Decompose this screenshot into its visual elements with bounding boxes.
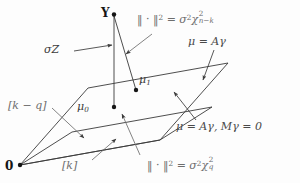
label-mu1-sub: 1 (146, 78, 151, 87)
label-k-minus-q-text: [k − q] (8, 99, 47, 112)
leader-sigma-z (74, 45, 112, 51)
leader-plane-k-minus-q (174, 92, 196, 120)
norm-bot-chi-sub: q (209, 164, 214, 171)
label-plane-k-minus-q-text: μ = Aγ, Mγ = 0 (176, 120, 262, 133)
label-norm-q: ‖ · ‖2 = σ2χ2q (147, 157, 213, 171)
norm-top-eq: = (167, 13, 176, 26)
label-Y: Y (101, 7, 110, 19)
label-plane-k: μ = Aγ (188, 36, 226, 47)
norm-bot-chi: χ (201, 159, 208, 172)
label-k: [k] (62, 160, 77, 171)
label-sigma-z: σZ (44, 44, 59, 55)
label-k-minus-q: [k − q] (8, 100, 47, 111)
label-k-text: [k] (62, 159, 77, 172)
point-origin (18, 163, 22, 167)
label-mu0: μ0 (77, 101, 89, 113)
norm-bot-lhs: ‖ · ‖ (147, 159, 169, 172)
leader-plane-k (203, 50, 214, 80)
point-mu1 (134, 88, 138, 92)
norm-top-chi: χ (191, 13, 198, 26)
norm-top-lhs: ‖ · ‖ (137, 13, 159, 26)
norm-bot-sigma: σ (189, 159, 197, 172)
norm-top-chi-sub: n−k (199, 18, 214, 25)
point-Y (112, 12, 116, 16)
point-mu0 (112, 105, 116, 109)
label-origin: 0 (5, 160, 13, 172)
label-plane-k-text: μ = Aγ (188, 35, 226, 48)
label-plane-k-minus-q: μ = Aγ, Mγ = 0 (176, 121, 262, 132)
norm-top-sigma: σ (179, 13, 187, 26)
label-mu0-sub: 0 (84, 105, 89, 114)
linear-model-geometry-figure: Y 0 σZ μ0 μ1 [k − q] [k] ‖ · ‖2 = σ2χ2n−… (0, 0, 300, 183)
norm-bot-chi-indices: 2q (209, 157, 214, 171)
norm-top-chi-indices: 2n−k (199, 11, 214, 25)
segment-y-to-mu1 (114, 16, 136, 90)
label-norm-n-minus-k: ‖ · ‖2 = σ2χ2n−k (137, 11, 214, 25)
leader-norm-nk (126, 34, 152, 54)
norm-bot-eq: = (177, 159, 186, 172)
geometry-svg (0, 0, 300, 183)
leader-k (92, 139, 116, 160)
label-mu1: μ1 (139, 74, 151, 86)
norm-top-sup: 2 (159, 13, 164, 22)
label-sigma-z-text: σZ (44, 43, 59, 56)
plane-k-outline (20, 63, 228, 165)
norm-bot-sup: 2 (169, 159, 174, 168)
